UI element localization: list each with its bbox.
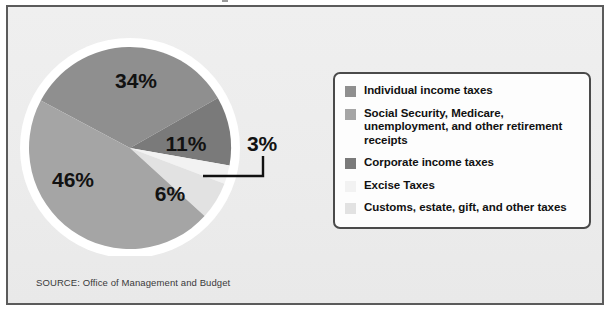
callout-label-3-percent: 3% — [247, 132, 277, 156]
scan-artifact-tick — [222, 0, 228, 2]
legend-item-label: Social Security, Medicare, unemployment,… — [364, 107, 579, 148]
legend-swatch-icon — [345, 203, 356, 214]
legend-swatch-icon — [345, 181, 356, 192]
legend-item[interactable]: Corporate income taxes — [345, 156, 579, 170]
legend-item[interactable]: Social Security, Medicare, unemployment,… — [345, 107, 579, 148]
chart-legend: Individual income taxes Social Security,… — [333, 72, 591, 229]
legend-item[interactable]: Excise Taxes — [345, 179, 579, 193]
legend-swatch-icon — [345, 86, 356, 97]
legend-item[interactable]: Individual income taxes — [345, 84, 579, 98]
legend-swatch-icon — [345, 109, 356, 120]
pie-slice-label: 6% — [155, 182, 186, 205]
legend-item-label: Individual income taxes — [364, 84, 493, 98]
legend-item-label: Corporate income taxes — [364, 156, 494, 170]
legend-item-label: Excise Taxes — [364, 179, 435, 193]
legend-swatch-icon — [345, 158, 356, 169]
pie-slice-label: 34% — [115, 69, 157, 92]
figure-screenshot: 34%11%6%46% 3% Individual income taxes S… — [0, 0, 614, 312]
pie-slice-label: 46% — [52, 168, 94, 191]
legend-item-label: Customs, estate, gift, and other taxes — [364, 201, 567, 215]
legend-item[interactable]: Customs, estate, gift, and other taxes — [345, 201, 579, 215]
source-note: SOURCE: Office of Management and Budget — [36, 277, 230, 288]
